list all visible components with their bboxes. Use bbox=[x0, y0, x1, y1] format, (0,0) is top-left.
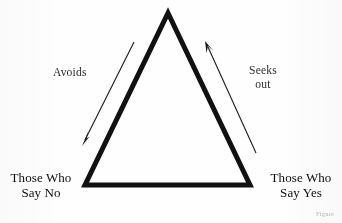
seeks-out-arrow bbox=[205, 41, 256, 153]
those-who-say-no-line1: Those Who bbox=[11, 170, 72, 185]
those-who-say-yes-label: Those Who Say Yes bbox=[261, 171, 341, 200]
figure-caption-fragment: Figure bbox=[316, 210, 334, 217]
seeks-out-arrow-head bbox=[205, 41, 214, 53]
triangle-outline bbox=[85, 13, 250, 185]
seeks-out-arrow-shaft bbox=[208, 47, 256, 153]
those-who-say-no-line2: Say No bbox=[1, 186, 81, 200]
those-who-say-no-label: Those Who Say No bbox=[1, 171, 81, 200]
avoids-label: Avoids bbox=[53, 66, 87, 78]
seeks-out-label-line2: out bbox=[238, 78, 288, 90]
those-who-say-yes-line2: Say Yes bbox=[261, 186, 341, 200]
figure-page: Avoids Seeks out Those Who Say No Those … bbox=[0, 0, 342, 223]
seeks-out-label: Seeks out bbox=[238, 64, 288, 91]
avoids-arrow-shaft bbox=[85, 42, 134, 140]
seeks-out-label-line1: Seeks bbox=[249, 64, 277, 76]
those-who-say-yes-line1: Those Who bbox=[271, 170, 332, 185]
